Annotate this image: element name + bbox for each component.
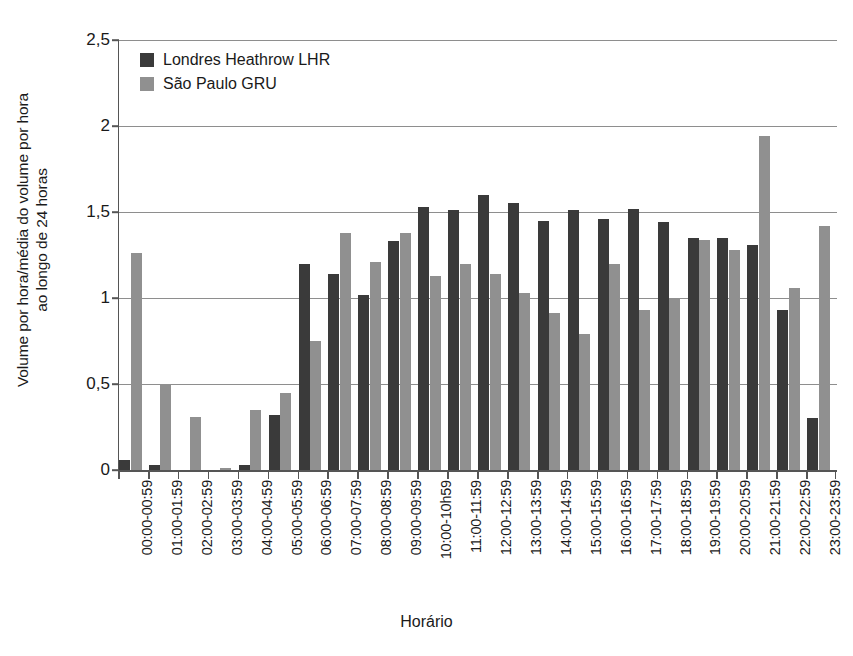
x-label-cell: 08:00-08:59 (357, 480, 387, 600)
x-tick-cell (208, 470, 238, 480)
y-tick-mark (112, 383, 119, 385)
bar-lhr (747, 245, 758, 470)
x-tick-cell (357, 470, 387, 480)
bar-group (179, 40, 209, 470)
x-label-cell: 20:00-20:59 (716, 480, 746, 600)
x-tick-mark (208, 470, 210, 479)
bar-gru (729, 250, 740, 470)
y-tick-label: 1,5 (86, 202, 110, 222)
x-tick-mark (597, 470, 599, 479)
x-label-cell: 18:00-18:59 (657, 480, 687, 600)
x-tick-label: 23:00-23:59 (827, 480, 843, 555)
x-tick-cell (118, 470, 148, 480)
bar-lhr (119, 460, 130, 470)
bar-lhr (478, 195, 489, 470)
bar-gru (460, 264, 471, 470)
bar-lhr (688, 238, 699, 470)
y-tick-label: 2,5 (86, 30, 110, 50)
y-tick-label: 1 (101, 288, 110, 308)
x-tick-mark (806, 470, 808, 479)
bar-group (448, 40, 478, 470)
x-label-cell: 23:00-23:59 (806, 480, 836, 600)
legend-swatch-icon-lhr (140, 53, 154, 67)
x-tick-cell (327, 470, 357, 480)
x-tick-cell (627, 470, 657, 480)
x-tick-mark (477, 470, 479, 479)
x-label-cell: 17:00-17:59 (627, 480, 657, 600)
x-label-cell: 16:00-16:59 (597, 480, 627, 600)
x-label-cell: 03:00-03:59 (208, 480, 238, 600)
bar-gru (639, 310, 650, 470)
bar-gru (250, 410, 261, 470)
bar-gru (340, 233, 351, 470)
x-tick-cell (657, 470, 687, 480)
legend-item-lhr: Londres Heathrow LHR (140, 48, 330, 72)
x-tick-mark (627, 470, 629, 479)
x-tick-mark (567, 470, 569, 479)
bar-group (658, 40, 688, 470)
x-label-cell: 01:00-01:59 (148, 480, 178, 600)
bar-lhr (388, 241, 399, 470)
x-tick-cell (746, 470, 776, 480)
y-tick-label: 2 (101, 116, 110, 136)
y-tick-mark (112, 125, 119, 127)
bar-gru (310, 341, 321, 470)
legend-item-gru: São Paulo GRU (140, 72, 330, 96)
y-axis-title: Volume por hora/média do volume por hora… (0, 0, 64, 480)
bar-group (209, 40, 239, 470)
bar-groups (119, 40, 837, 470)
x-tick-cell (477, 470, 507, 480)
x-label-cell: 11:00-11:59 (447, 480, 477, 600)
bar-lhr (807, 418, 818, 470)
y-tick-mark (112, 211, 119, 213)
x-tick-mark (268, 470, 270, 479)
x-tick-cell (417, 470, 447, 480)
bar-group (598, 40, 628, 470)
bar-gru (669, 298, 680, 470)
bar-gru (490, 274, 501, 470)
bar-group (747, 40, 777, 470)
x-tick-cell (387, 470, 417, 480)
bar-gru (370, 262, 381, 470)
x-label-cell: 19:00-19:59 (687, 480, 717, 600)
plot-inner: 00,511,522,5 (119, 40, 837, 470)
x-label-cell: 14:00-14:59 (537, 480, 567, 600)
bar-gru (819, 226, 830, 470)
x-tick-mark (447, 470, 449, 479)
x-tick-cell (716, 470, 746, 480)
x-tick-cell (687, 470, 717, 480)
bar-group (568, 40, 598, 470)
bar-gru (280, 393, 291, 470)
x-tick-cell (597, 470, 627, 480)
x-label-cell: 07:00-07:59 (327, 480, 357, 600)
bar-gru (131, 253, 142, 470)
x-tick-mark (507, 470, 509, 479)
bar-group (777, 40, 807, 470)
x-tick-cell (447, 470, 477, 480)
bar-group (388, 40, 418, 470)
x-tick-mark (657, 470, 659, 479)
y-axis-title-line1: Volume por hora/média do volume por hora (14, 93, 31, 387)
bar-group (807, 40, 837, 470)
bar-gru (579, 334, 590, 470)
plot-area: 00,511,522,5 (118, 40, 837, 470)
x-tick-cell (148, 470, 178, 480)
x-tick-mark (835, 470, 837, 479)
legend-label-gru: São Paulo GRU (163, 75, 277, 93)
bar-group (628, 40, 658, 470)
x-tick-mark (417, 470, 419, 479)
bar-gru (190, 417, 201, 470)
bar-lhr (269, 415, 280, 470)
x-label-cell: 21:00-21:59 (746, 480, 776, 600)
x-label-cell: 10:00-10h59 (417, 480, 447, 600)
bar-lhr (538, 221, 549, 470)
bar-group (239, 40, 269, 470)
x-tick-mark (746, 470, 748, 479)
bar-group (119, 40, 149, 470)
x-label-cell: 02:00-02:59 (178, 480, 208, 600)
y-tick-mark (112, 39, 119, 41)
x-tick-cell (776, 470, 806, 480)
legend-swatch-icon-gru (140, 77, 154, 91)
bar-lhr (328, 274, 339, 470)
x-axis-ticks (118, 470, 836, 480)
